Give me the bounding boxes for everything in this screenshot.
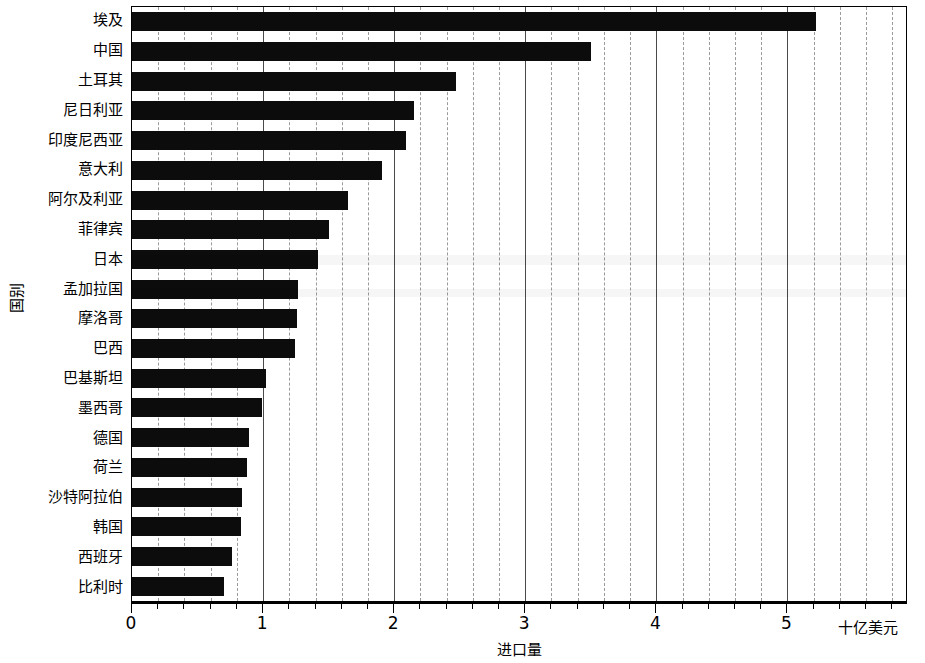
bar: [132, 547, 232, 566]
x-axis-tick-label: 1: [257, 615, 268, 632]
x-axis-tick-label: 0: [126, 615, 137, 632]
x-tick-minor: [419, 602, 420, 609]
bar: [132, 339, 295, 358]
bar-row: [132, 334, 906, 364]
x-axis-tick-label: 5: [781, 615, 792, 632]
bar-row: [132, 96, 906, 126]
y-axis-tick-label: 巴西: [14, 334, 126, 364]
bar-row: [132, 571, 906, 601]
bar: [132, 517, 241, 536]
bar: [132, 398, 262, 417]
y-axis-tick-labels: 埃及中国土耳其尼日利亚印度尼西亚意大利阿尔及利亚菲律宾日本孟加拉国摩洛哥巴西巴基…: [14, 6, 126, 602]
x-tick-major: [786, 602, 787, 613]
bar-chart: 国别 埃及中国土耳其尼日利亚印度尼西亚意大利阿尔及利亚菲律宾日本孟加拉国摩洛哥巴…: [0, 0, 925, 663]
bar: [132, 42, 591, 61]
bar: [132, 458, 247, 477]
x-tick-minor: [446, 602, 447, 609]
x-tick-minor: [498, 602, 499, 609]
x-tick-minor: [891, 602, 892, 609]
bar-row: [132, 126, 906, 156]
y-axis-tick-label: 意大利: [14, 155, 126, 185]
y-axis-tick-label: 阿尔及利亚: [14, 185, 126, 215]
y-axis-tick-label: 德国: [14, 423, 126, 453]
bar: [132, 428, 249, 447]
x-axis-title: 进口量: [131, 638, 907, 659]
x-tick-minor: [734, 602, 735, 609]
bar-row: [132, 423, 906, 453]
x-tick-minor: [236, 602, 237, 609]
bar-row: [132, 542, 906, 572]
y-axis-tick-label: 尼日利亚: [14, 95, 126, 125]
x-axis-tick-label: 2: [388, 615, 399, 632]
y-axis-tick-label: 印度尼西亚: [14, 125, 126, 155]
x-tick-major: [393, 602, 394, 613]
y-axis-tick-label: 沙特阿拉伯: [14, 483, 126, 513]
y-axis-tick-label: 中国: [14, 36, 126, 66]
bar: [132, 488, 242, 507]
x-tick-minor: [341, 602, 342, 609]
y-axis-tick-label: 巴基斯坦: [14, 364, 126, 394]
x-tick-major: [524, 602, 525, 613]
y-axis-tick-label: 西班牙: [14, 542, 126, 572]
x-tick-minor: [839, 602, 840, 609]
y-axis-tick-label: 埃及: [14, 6, 126, 36]
bar-series: [132, 7, 906, 601]
x-tick-minor: [210, 602, 211, 609]
y-axis-tick-label: 荷兰: [14, 453, 126, 483]
x-tick-minor: [550, 602, 551, 609]
x-tick-minor: [708, 602, 709, 609]
x-tick-minor: [682, 602, 683, 609]
bar: [132, 101, 414, 120]
x-tick-minor: [629, 602, 630, 609]
bar-row: [132, 66, 906, 96]
bar-row: [132, 185, 906, 215]
x-tick-minor: [472, 602, 473, 609]
x-tick-minor: [315, 602, 316, 609]
bar: [132, 131, 406, 150]
x-axis-tick-label: 3: [519, 615, 530, 632]
plot-area: [131, 6, 907, 602]
x-tick-minor: [760, 602, 761, 609]
bar: [132, 161, 382, 180]
x-tick-minor: [577, 602, 578, 609]
bar: [132, 12, 816, 31]
bar: [132, 309, 297, 328]
bar: [132, 220, 329, 239]
x-tick-minor: [183, 602, 184, 609]
bar-row: [132, 7, 906, 37]
y-axis-tick-label: 比利时: [14, 572, 126, 602]
x-tick-minor: [157, 602, 158, 609]
x-tick-minor: [603, 602, 604, 609]
bar-row: [132, 37, 906, 67]
x-axis-line: [131, 602, 907, 604]
bar-row: [132, 215, 906, 245]
x-axis: [131, 602, 907, 603]
x-tick-minor: [367, 602, 368, 609]
x-axis-tick-labels: 012345: [131, 615, 907, 639]
x-tick-minor: [288, 602, 289, 609]
y-axis-tick-label: 孟加拉国: [14, 274, 126, 304]
x-tick-major: [655, 602, 656, 613]
bar-row: [132, 512, 906, 542]
y-axis-tick-label: 菲律宾: [14, 215, 126, 245]
bar: [132, 250, 318, 269]
y-axis-tick-label: 墨西哥: [14, 393, 126, 423]
bar-row: [132, 482, 906, 512]
bar: [132, 577, 224, 596]
bar-row: [132, 453, 906, 483]
bar-row: [132, 245, 906, 275]
bar: [132, 191, 348, 210]
bar-row: [132, 156, 906, 186]
x-tick-major: [262, 602, 263, 613]
bar-row: [132, 274, 906, 304]
x-tick-major: [131, 602, 132, 613]
y-axis-tick-label: 土耳其: [14, 66, 126, 96]
y-axis-tick-label: 韩国: [14, 513, 126, 543]
y-axis-tick-label: 日本: [14, 244, 126, 274]
bar-row: [132, 393, 906, 423]
bar-row: [132, 363, 906, 393]
x-axis-unit-label: 十亿美元: [838, 616, 898, 637]
bar: [132, 72, 456, 91]
bar: [132, 369, 266, 388]
x-tick-minor: [813, 602, 814, 609]
